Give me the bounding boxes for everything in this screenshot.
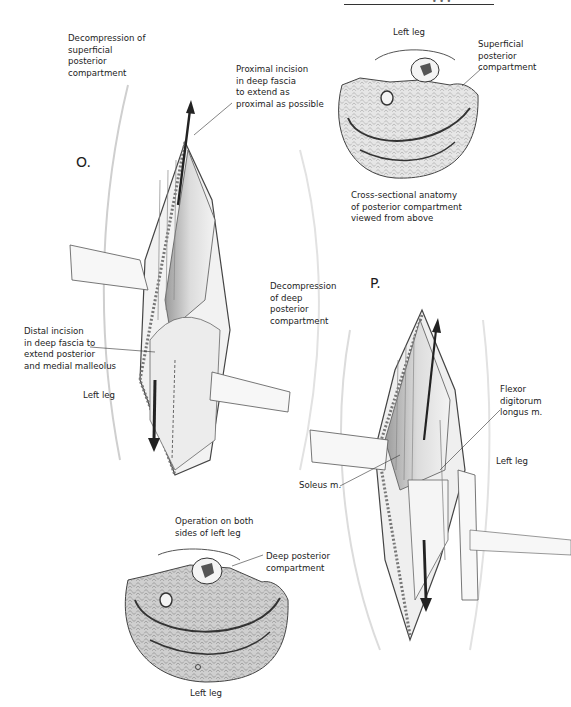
panel-o-leg-label: Left leg bbox=[83, 390, 115, 402]
proximal-incision-label: Proximal incision in deep fascia to exte… bbox=[236, 64, 324, 110]
cross-section-bottom-title: Operation on both sides of left leg bbox=[175, 516, 253, 539]
cross-section-top-title: Left leg bbox=[393, 27, 425, 39]
panel-p-leg-label: Left leg bbox=[496, 456, 528, 468]
flexor-digitorum-label: Flexor digitorum longus m. bbox=[500, 384, 542, 419]
panel-o-title: Decompression of superficial posterior c… bbox=[68, 33, 145, 79]
panel-p-title: Decompression of deep posterior compartm… bbox=[270, 281, 336, 327]
superficial-compartment-label: Superficial posterior compartment bbox=[478, 39, 536, 74]
cross-section-bottom-drawing bbox=[125, 549, 288, 682]
deep-compartment-label: Deep posterior compartment bbox=[266, 551, 330, 574]
cross-section-top-caption: Cross-sectional anatomy of posterior com… bbox=[351, 190, 462, 225]
cross-section-bottom-caption: Left leg bbox=[190, 688, 222, 700]
distal-incision-label: Distal incision in deep fascia to extend… bbox=[24, 326, 116, 372]
panel-p-letter: P. bbox=[370, 275, 381, 291]
panel-o-leg-drawing bbox=[70, 85, 319, 475]
soleus-label: Soleus m. bbox=[299, 480, 341, 492]
panel-o-letter: O. bbox=[76, 154, 91, 170]
cross-section-top-drawing bbox=[339, 50, 482, 178]
panel-p-leg-drawing bbox=[310, 310, 571, 650]
